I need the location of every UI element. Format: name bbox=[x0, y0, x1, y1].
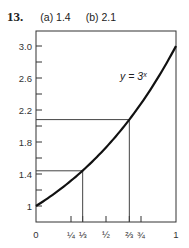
x-tick-label: ⅔ bbox=[125, 229, 133, 240]
y-tick-label: 2.6 bbox=[19, 73, 32, 84]
curve-line bbox=[36, 46, 176, 206]
y-axis-ticks: 11.41.82.22.63.0 bbox=[19, 41, 42, 212]
y-tick-label: 3.0 bbox=[19, 41, 32, 52]
x-tick-label: ½ bbox=[102, 229, 110, 240]
y-tick-label: 1 bbox=[27, 201, 32, 212]
x-tick-label: 1 bbox=[173, 229, 178, 240]
x-tick-label: 0 bbox=[33, 229, 38, 240]
x-tick-label: ¼ bbox=[67, 229, 76, 240]
y-tick-label: 2.2 bbox=[19, 105, 32, 116]
curve-label: y = 3ˣ bbox=[119, 70, 148, 82]
plot-frame bbox=[36, 31, 176, 222]
x-tick-label: ⅓ bbox=[79, 229, 87, 240]
exponential-chart: 11.41.82.22.63.0 0¼⅓½⅔¾1 y = 3ˣ bbox=[0, 0, 189, 248]
y-tick-label: 1.4 bbox=[19, 169, 32, 180]
x-tick-label: ¾ bbox=[137, 229, 146, 240]
y-tick-label: 1.8 bbox=[19, 137, 32, 148]
x-axis-ticks: 0¼⅓½⅔¾1 bbox=[33, 216, 178, 240]
